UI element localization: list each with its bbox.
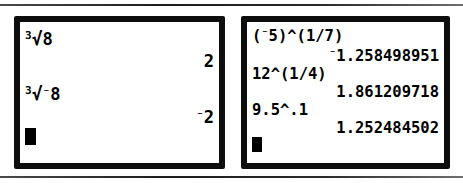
open-paren: ( <box>252 27 261 45</box>
line-spacer <box>25 72 214 80</box>
screen-content-left: 3√8 2 3√⁻8 ⁻2 <box>20 22 219 163</box>
radical-sign-icon: √ <box>32 28 43 49</box>
entry-line-neg5-pow-1-7: (⁻5)^(1/7) <box>252 25 439 45</box>
result-line-neg-1-258498951: ⁻1.258498951 <box>252 45 439 65</box>
calculator-screen-right: (⁻5)^(1/7) ⁻1.258498951 12^(1/4) 1.86120… <box>241 16 450 169</box>
negation-sign-icon: ⁻ <box>261 27 268 41</box>
screen-content-right: (⁻5)^(1/7) ⁻1.258498951 12^(1/4) 1.86120… <box>247 22 444 163</box>
entry-line-cube-root-neg-8: 3√⁻8 <box>25 80 214 105</box>
cursor-line[interactable] <box>252 137 439 156</box>
exponent-expression: )^(1/7) <box>278 27 343 45</box>
calculator-screen-left: 3√8 2 3√⁻8 ⁻2 <box>14 16 225 169</box>
radical-index-3: 3 <box>25 29 32 42</box>
entry-line-12-pow-1-4: 12^(1/4) <box>252 65 439 83</box>
base-5: 5 <box>269 27 278 45</box>
result-line-1-861209718: 1.861209718 <box>252 83 439 101</box>
entry-line-9-5-pow-point-1: 9.5^.1 <box>252 101 439 119</box>
result-line-1-252484502: 1.252484502 <box>252 119 439 137</box>
radical-sign-icon: √ <box>32 83 43 104</box>
result-value-2: 2 <box>204 107 214 127</box>
radicand-8: 8 <box>50 84 60 104</box>
block-cursor[interactable] <box>252 137 262 152</box>
radicand-8: 8 <box>42 29 52 49</box>
entry-line-cube-root-8: 3√8 <box>25 25 214 50</box>
result-line-2: 2 <box>25 50 214 72</box>
result-value: 1.258498951 <box>336 47 439 65</box>
top-horizontal-rule <box>0 4 463 6</box>
negation-sign-icon: ⁻ <box>196 108 204 123</box>
bottom-horizontal-rule <box>0 176 463 178</box>
result-value-2: 2 <box>204 51 214 71</box>
result-line-neg-2: ⁻2 <box>25 105 214 128</box>
radical-index-3: 3 <box>25 84 32 97</box>
block-cursor[interactable] <box>25 128 36 145</box>
cursor-line[interactable] <box>25 128 214 150</box>
